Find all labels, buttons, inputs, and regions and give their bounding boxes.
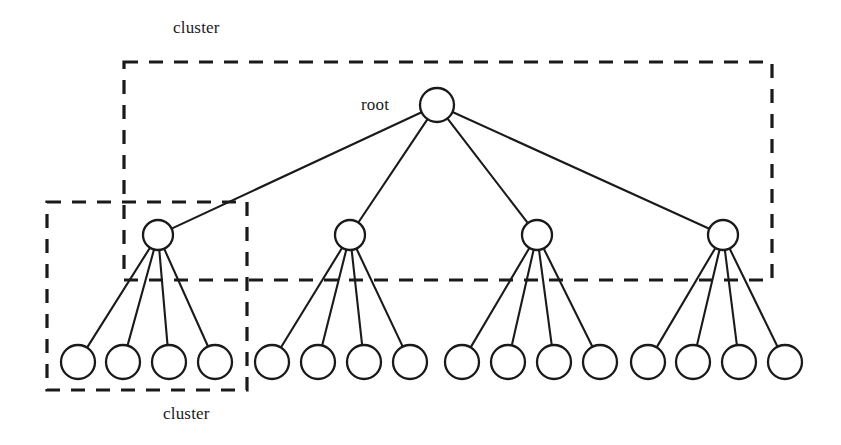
edge-internal-2-to-leaf-7 [352, 250, 362, 345]
tree-node-leaf-5[interactable] [255, 345, 289, 379]
edge-internal-4-to-leaf-14 [697, 250, 720, 346]
tree-node-leaf-3[interactable] [152, 345, 186, 379]
edge-internal-4-to-leaf-13 [657, 248, 716, 347]
tree-node-leaf-11[interactable] [537, 345, 571, 379]
edge-internal-4-to-leaf-16 [730, 248, 778, 346]
tree-node-leaf-9[interactable] [445, 345, 479, 379]
edge-root-to-internal-3 [447, 118, 527, 223]
tree-node-leaf-16[interactable] [768, 345, 802, 379]
nodes-layer [61, 88, 802, 379]
tree-node-leaf-8[interactable] [393, 345, 427, 379]
edge-internal-2-to-leaf-6 [322, 250, 346, 346]
tree-node-leaf-14[interactable] [676, 345, 710, 379]
edges-layer [87, 112, 777, 348]
edge-internal-1-to-leaf-4 [164, 249, 208, 347]
edge-internal-2-to-leaf-5 [281, 248, 342, 348]
edge-internal-3-to-leaf-10 [512, 250, 534, 346]
edge-internal-3-to-leaf-9 [471, 248, 530, 347]
edge-root-to-internal-1 [172, 112, 422, 228]
edge-internal-3-to-leaf-11 [539, 250, 552, 345]
tree-node-internal-4[interactable] [708, 220, 738, 250]
tree-diagram-figure: cluster root cluster [0, 0, 841, 445]
tree-node-leaf-7[interactable] [347, 345, 381, 379]
edge-root-to-internal-2 [358, 119, 427, 222]
tree-node-leaf-10[interactable] [491, 345, 525, 379]
cluster-label-top: cluster [173, 18, 220, 38]
tree-node-internal-2[interactable] [335, 220, 365, 250]
edge-root-to-internal-4 [452, 112, 709, 229]
tree-diagram-canvas [0, 0, 841, 445]
edge-internal-2-to-leaf-8 [356, 249, 402, 347]
tree-node-internal-1[interactable] [143, 220, 173, 250]
cluster-label-bottom: cluster [163, 404, 210, 424]
tree-node-leaf-1[interactable] [61, 345, 95, 379]
tree-node-leaf-2[interactable] [106, 345, 140, 379]
edge-internal-4-to-leaf-15 [725, 250, 737, 345]
tree-node-leaf-12[interactable] [583, 345, 617, 379]
tree-node-leaf-4[interactable] [198, 345, 232, 379]
tree-node-leaf-13[interactable] [631, 345, 665, 379]
tree-node-internal-3[interactable] [522, 220, 552, 250]
tree-node-leaf-15[interactable] [722, 345, 756, 379]
tree-node-root[interactable] [420, 88, 454, 122]
root-label: root [361, 95, 389, 115]
tree-node-leaf-6[interactable] [301, 345, 335, 379]
edge-internal-1-to-leaf-3 [159, 250, 167, 345]
